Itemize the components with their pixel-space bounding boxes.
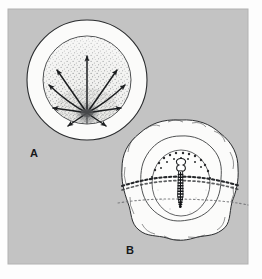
panel-b-label: B [126,244,134,256]
panel-a-focus-point [81,109,94,117]
panel-a-label: A [30,147,38,159]
figure-canvas: A [0,0,262,279]
figure-root: A [0,0,262,279]
